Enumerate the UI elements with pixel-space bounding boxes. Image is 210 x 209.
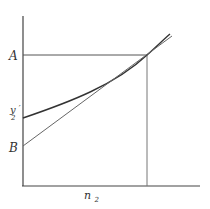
- tangent-line: [23, 36, 172, 146]
- label-a: A: [8, 49, 18, 63]
- label-y2prime-sub: 2: [10, 114, 16, 122]
- label-y2prime-prime: ′: [19, 103, 21, 112]
- label-n2-main: n: [84, 189, 91, 202]
- diagram: A y ′ 2 B n 2: [0, 0, 210, 209]
- label-b: B: [8, 141, 18, 155]
- curve: [23, 34, 170, 118]
- label-n2: n 2: [84, 189, 100, 204]
- label-n2-sub: 2: [94, 196, 100, 204]
